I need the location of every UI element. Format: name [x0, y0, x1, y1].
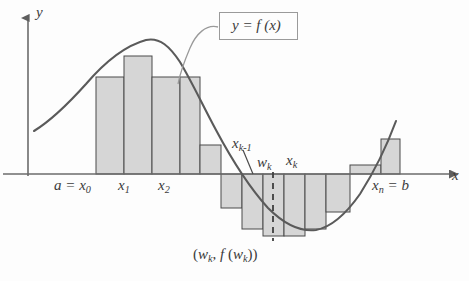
xn-base: x: [372, 177, 379, 193]
tick-label-xn-b: xn = b: [372, 178, 409, 195]
bar-10: [326, 174, 350, 212]
xk-base: x: [286, 152, 293, 168]
point-w2-base: w: [233, 246, 243, 262]
wk-subscript: k: [267, 161, 272, 172]
bar-6: [242, 174, 263, 229]
bar-0: [96, 77, 124, 174]
tick-label-a-x0: a = x0: [54, 178, 91, 195]
x2-subscript: 2: [165, 184, 170, 195]
a-equals-text: a =: [54, 177, 75, 193]
tick-label-wk: wk: [257, 155, 272, 172]
xk-minus-one-leader-line: [243, 150, 253, 174]
xk1-subscript: k-1: [239, 142, 252, 153]
riemann-sum-figure: y = f (x) y x a = x0 x1 x2 xk-1 wk xk xn…: [0, 0, 469, 281]
callout-text: y = f (x): [232, 17, 281, 33]
equals-b-text: = b: [388, 177, 409, 193]
bar-1: [124, 56, 152, 174]
callout-leader-line: [178, 26, 218, 84]
point-w-base: w: [198, 246, 208, 262]
xk-subscript: k: [293, 159, 298, 170]
point-comma: ,: [213, 246, 217, 262]
point-f: f: [220, 246, 224, 262]
tick-label-x2: x2: [158, 178, 170, 195]
bar-4: [200, 145, 221, 174]
x2-base: x: [158, 177, 165, 193]
x0-base: x: [79, 177, 86, 193]
tick-label-x1: x1: [118, 178, 130, 195]
tick-label-xk-minus-1: xk-1: [232, 136, 252, 153]
bar-2: [152, 77, 180, 174]
y-axis-label: y: [36, 5, 43, 20]
callout-label: y = f (x): [232, 18, 281, 33]
x1-subscript: 1: [125, 184, 130, 195]
x-axis-label: x: [452, 168, 459, 183]
bar-9: [305, 174, 326, 229]
x0-subscript: 0: [86, 184, 91, 195]
bar-12: [381, 139, 400, 174]
wk-base: w: [257, 154, 267, 170]
xk1-base: x: [232, 135, 239, 151]
tick-label-xk: xk: [286, 153, 297, 170]
point-paren-close: ): [253, 246, 258, 262]
bar-5: [221, 174, 242, 208]
point-coordinate-label: (wk, f (wk)): [193, 247, 258, 264]
xn-subscript: n: [379, 184, 384, 195]
x1-base: x: [118, 177, 125, 193]
